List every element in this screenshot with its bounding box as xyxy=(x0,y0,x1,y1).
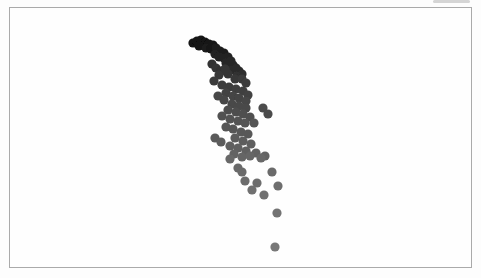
figure-canvas xyxy=(0,0,481,278)
scatter-point xyxy=(270,242,279,251)
scatter-point xyxy=(217,111,226,120)
scatter-point xyxy=(240,176,249,185)
scatter-points-layer xyxy=(188,35,282,251)
scatter-point xyxy=(259,190,268,199)
scatter-point xyxy=(273,181,282,190)
scatter-point xyxy=(272,208,281,217)
scatter-point xyxy=(225,114,234,123)
scatter-point xyxy=(256,153,265,162)
scatter-point xyxy=(228,124,237,133)
scatter-point xyxy=(230,133,239,142)
scatter-point xyxy=(213,91,222,100)
scatter-point xyxy=(245,151,254,160)
scatter-point xyxy=(267,167,276,176)
scatter-point xyxy=(225,154,234,163)
scatter-plot xyxy=(0,0,481,278)
scatter-point xyxy=(216,137,225,146)
scatter-point xyxy=(237,167,246,176)
scatter-point xyxy=(209,76,218,85)
scatter-point xyxy=(237,152,246,161)
scatter-point xyxy=(247,185,256,194)
screenshot-root: { "figure": { "background_color": "#fdfd… xyxy=(0,0,481,278)
scatter-point xyxy=(240,118,249,127)
scatter-point xyxy=(241,78,250,87)
scatter-point xyxy=(249,118,258,127)
scatter-point xyxy=(225,141,234,150)
scatter-point xyxy=(263,109,272,118)
